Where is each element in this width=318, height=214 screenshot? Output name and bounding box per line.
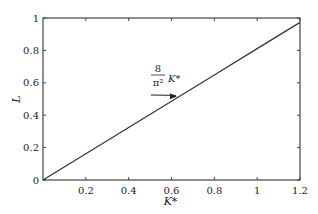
y-axis-label: L [10, 95, 23, 103]
annotation-suffix: K* [167, 73, 180, 84]
annotation-denominator: π² [153, 77, 164, 88]
y-tick-label: 0.8 [23, 45, 39, 56]
annotation-numerator: 8 [155, 63, 161, 74]
x-tick-label: 1 [254, 185, 260, 196]
series-line [43, 22, 300, 180]
y-tick-label: 0 [33, 175, 39, 186]
x-tick-label: 0.8 [206, 185, 222, 196]
y-tick-label: 0.2 [23, 142, 39, 153]
x-tick-label: 0.2 [78, 185, 94, 196]
y-tick-label: 0.6 [23, 77, 39, 88]
line-chart: 0.20.40.60.811.200.20.40.60.81K*L8π²K* [0, 0, 318, 214]
x-axis-label: K* [163, 195, 178, 208]
x-tick-label: 0.4 [121, 185, 137, 196]
y-tick-label: 0.4 [23, 110, 39, 121]
y-tick-label: 1 [33, 13, 39, 24]
x-tick-label: 1.2 [292, 185, 308, 196]
